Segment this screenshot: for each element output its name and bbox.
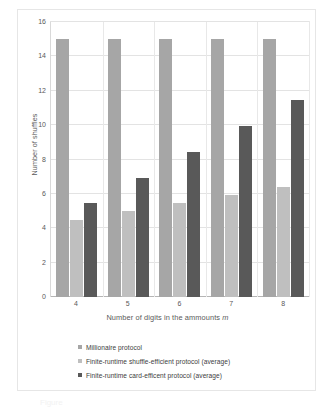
y-tick-label: 4: [26, 224, 46, 231]
legend-swatch-icon: [78, 345, 82, 349]
y-tick-label: 14: [26, 52, 46, 59]
bar[interactable]: [225, 195, 238, 297]
bar[interactable]: [239, 126, 252, 297]
legend-item[interactable]: Finite-runtime shuffle-efficient protoco…: [78, 354, 308, 368]
bar-group: [103, 22, 155, 297]
y-tick-label: 0: [26, 293, 46, 300]
x-axis-title-text: Number of digits in the ammounts: [106, 313, 222, 322]
plot-area: [50, 21, 310, 297]
bar-group: [206, 22, 258, 297]
legend-item[interactable]: Millionaire protocol: [78, 340, 308, 354]
bar[interactable]: [70, 220, 83, 297]
y-tick-label: 6: [26, 189, 46, 196]
x-tick-label: 6: [154, 300, 206, 307]
y-tick-label: 12: [26, 86, 46, 93]
bar-groups: [51, 22, 309, 297]
x-axis-title-variable: m: [222, 313, 228, 322]
chart-frame: Number of shuffles 0246810121416 45678 N…: [17, 9, 316, 391]
legend-label: Millionaire protocol: [86, 344, 142, 351]
bar[interactable]: [187, 152, 200, 297]
x-tick-label: 5: [102, 300, 154, 307]
legend-swatch-icon: [78, 359, 82, 363]
legend-swatch-icon: [78, 373, 82, 377]
chart-legend: Millionaire protocolFinite-runtime shuff…: [78, 340, 308, 382]
bar[interactable]: [211, 39, 224, 297]
bar[interactable]: [291, 100, 304, 297]
x-axis-title: Number of digits in the ammounts m: [18, 313, 317, 322]
bar[interactable]: [108, 39, 121, 297]
legend-item[interactable]: Finite-runtime card-efficent protocol (a…: [78, 368, 308, 382]
x-axis-tick-labels: 45678: [50, 300, 309, 307]
bar[interactable]: [173, 203, 186, 297]
bar[interactable]: [263, 39, 276, 297]
x-tick-label: 4: [50, 300, 102, 307]
plot-wrap: Number of shuffles 0246810121416 45678 N…: [18, 10, 317, 310]
y-axis-tick-labels: 0246810121416: [26, 21, 46, 296]
bar-group: [154, 22, 206, 297]
y-tick-label: 10: [26, 121, 46, 128]
y-tick-label: 2: [26, 258, 46, 265]
legend-label: Finite-runtime card-efficent protocol (a…: [86, 372, 222, 379]
bar[interactable]: [136, 178, 149, 297]
bar-group: [51, 22, 103, 297]
bar[interactable]: [56, 39, 69, 297]
bar[interactable]: [84, 203, 97, 297]
bar[interactable]: [277, 187, 290, 297]
bar[interactable]: [122, 211, 135, 297]
caption-remnant: Figure: [40, 398, 220, 410]
x-tick-label: 7: [205, 300, 257, 307]
y-tick-label: 16: [26, 18, 46, 25]
bar[interactable]: [159, 39, 172, 297]
x-tick-label: 8: [257, 300, 309, 307]
legend-label: Finite-runtime shuffle-efficient protoco…: [86, 358, 230, 365]
y-tick-label: 8: [26, 155, 46, 162]
bar-group: [257, 22, 309, 297]
